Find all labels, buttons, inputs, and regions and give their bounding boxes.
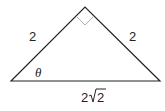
hypotenuse-label: 2 2 (81, 89, 106, 105)
right-leg-label: 2 (129, 29, 136, 44)
triangle (11, 7, 160, 81)
right-angle-marker (76, 16, 94, 25)
svg-text:2: 2 (81, 90, 88, 105)
triangle-diagram: 2 2 θ 2 2 (0, 0, 165, 111)
svg-text:2: 2 (97, 90, 104, 105)
left-leg-label: 2 (29, 29, 36, 44)
angle-theta-label: θ (35, 65, 42, 80)
